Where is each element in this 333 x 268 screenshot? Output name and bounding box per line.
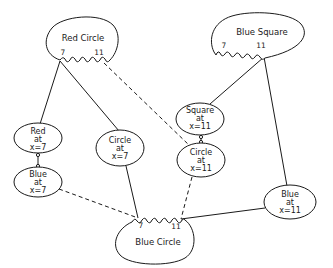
edge-circle-at-7-to-bluecircle [126,166,138,218]
link-marker [36,153,39,156]
link-marker [199,135,202,138]
node-blue-at-x7: Blue at x=7 [14,167,62,197]
node-line-3: x=7 [30,143,47,152]
node-line-3: x=7 [30,186,47,195]
node-line-3: x=11 [279,206,301,215]
frame-title: Blue Circle [135,237,180,247]
edge-blue-at-7-to-bluecircle [59,189,138,218]
node-red-at-x7: Red at x=7 [14,123,62,153]
frame-title: Blue Square [236,27,287,37]
edge-bluesquare-to-square-at-11 [210,57,264,104]
port-11: 11 [256,41,266,50]
frame-blue-circle: Blue Circle 7 11 [116,218,194,264]
edges [36,57,287,219]
node-line-3: x=11 [190,164,212,173]
node-circle-at-x7: Circle at x=7 [96,130,144,166]
node-blue-at-x11: Blue at x=11 [264,185,316,219]
node-line-3: x=7 [112,152,129,161]
edge-redcircle-to-red-at-7 [40,61,60,124]
node-line-3: x=11 [189,122,211,131]
frame-red-circle: Red Circle 7 11 [46,17,118,62]
edge-redcircle-to-circle-at-7 [60,61,119,131]
port-7: 7 [222,41,227,50]
port-11: 11 [94,48,104,57]
port-7: 7 [139,221,144,230]
edge-blue-at-11-to-bluecircle [181,208,265,219]
semantic-network-diagram: Red Circle 7 11 Blue Square 7 11 Blue Ci… [0,0,333,268]
port-11: 11 [171,222,181,231]
edge-circle-at-11-to-bluecircle [181,177,192,219]
edge-bluesquare-to-blue-at-11 [264,57,287,186]
port-7: 7 [61,48,66,57]
node-circle-at-x11: Circle at x=11 [177,143,225,177]
frame-blue-square: Blue Square 7 11 [211,13,304,60]
node-square-at-x11: Square at x=11 [176,103,224,135]
frame-title: Red Circle [62,33,105,43]
